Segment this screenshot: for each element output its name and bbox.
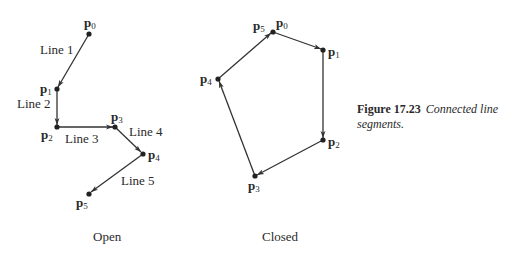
closed-label-p3: p3 bbox=[248, 178, 260, 194]
closed-title: Closed bbox=[262, 229, 299, 244]
closed-label-p5: p5 bbox=[253, 18, 265, 34]
closed-point-p2 bbox=[320, 137, 325, 142]
closed-point-p4 bbox=[215, 76, 220, 81]
open-label-p4: p4 bbox=[148, 147, 160, 163]
closed-point-p0 bbox=[270, 29, 275, 34]
open-point-p1 bbox=[54, 86, 59, 91]
open-line-5-label: Line 5 bbox=[121, 173, 155, 188]
open-point-p5 bbox=[86, 191, 91, 196]
open-label-p3: p3 bbox=[111, 109, 123, 125]
caption-number: Figure 17.23 bbox=[357, 102, 421, 116]
closed-label-p2: p2 bbox=[328, 134, 340, 150]
closed-label-p0: p0 bbox=[276, 15, 288, 31]
open-point-p2 bbox=[54, 124, 59, 129]
open-line-4-label: Line 4 bbox=[129, 124, 163, 139]
closed-label-p1: p1 bbox=[328, 44, 340, 60]
open-polyline: p0 p1 p2 p3 p4 p5 Line 1 Line 2 Line 3 L… bbox=[17, 15, 163, 244]
open-label-p0: p0 bbox=[84, 15, 96, 31]
open-point-p3 bbox=[112, 124, 117, 129]
closed-point-p1 bbox=[320, 47, 325, 52]
caption-line-1: Figure 17.23Connected line bbox=[357, 102, 499, 116]
closed-line-4 bbox=[219, 81, 255, 176]
caption-text-1: Connected line bbox=[426, 102, 499, 116]
open-label-p2: p2 bbox=[41, 127, 53, 143]
open-line-2-label: Line 2 bbox=[17, 96, 51, 111]
open-label-p5: p5 bbox=[76, 195, 88, 211]
connected-line-segments-figure: p0 p1 p2 p3 p4 p5 Line 1 Line 2 Line 3 L… bbox=[0, 0, 516, 253]
open-point-p4 bbox=[140, 151, 145, 156]
open-label-p1: p1 bbox=[40, 81, 52, 97]
open-line-3-label: Line 3 bbox=[65, 131, 99, 146]
open-title: Open bbox=[93, 229, 122, 244]
closed-label-p4: p4 bbox=[200, 71, 212, 87]
open-line-1-label: Line 1 bbox=[40, 42, 74, 57]
closed-line-5 bbox=[218, 33, 271, 79]
caption-text-2: segments. bbox=[357, 117, 404, 131]
open-point-p0 bbox=[86, 31, 91, 36]
closed-polygon: p0 p1 p2 p3 p4 p5 Closed bbox=[200, 15, 340, 244]
closed-line-1 bbox=[273, 32, 321, 49]
closed-line-3 bbox=[257, 140, 323, 175]
figure-caption: Figure 17.23Connected line segments. bbox=[357, 102, 499, 131]
